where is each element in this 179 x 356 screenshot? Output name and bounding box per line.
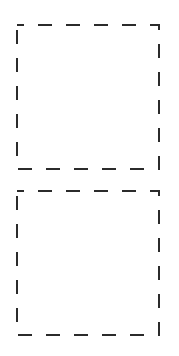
dashed-border: [16, 190, 160, 336]
dashed-placeholder-box-2: [16, 190, 160, 336]
dashed-border: [16, 24, 160, 170]
dashed-placeholder-box-1: [16, 24, 160, 170]
